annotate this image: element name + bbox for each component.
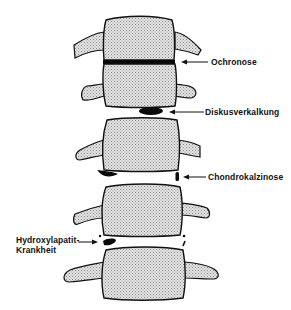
arrow-hydroxylapatit — [78, 240, 98, 245]
hydroxyapatite-deposit — [103, 239, 116, 246]
vertebral-body — [103, 118, 180, 172]
vertebral-body — [102, 247, 185, 300]
arrow-ochronose — [181, 60, 208, 65]
transverse-process-left — [74, 205, 104, 224]
hydroxyapatite-dot-right — [183, 235, 186, 238]
hydroxyapatite-mark-right — [183, 241, 185, 246]
label-chondrokalzinose: Chondrokalzinose — [208, 172, 283, 182]
vertebra-1 — [74, 16, 201, 60]
chondrocalcinosis-left — [99, 171, 116, 176]
transverse-process-left — [64, 262, 105, 282]
transverse-process-right — [178, 140, 200, 157]
vertebral-body — [103, 16, 174, 60]
disc-calcification-blob — [139, 107, 163, 115]
arrow-chondrokalzinose — [183, 175, 206, 180]
spine-diagram — [0, 0, 291, 310]
chondrocalcinosis-right — [176, 172, 180, 181]
label-diskusverkalkung: Diskusverkalkung — [205, 107, 279, 117]
transverse-process-left — [82, 84, 104, 100]
transverse-process-right — [175, 32, 201, 55]
hydroxyapatite-dot-left — [99, 235, 101, 237]
vertebra-2 — [82, 64, 196, 108]
vertebral-body — [103, 64, 177, 108]
transverse-process-left — [76, 140, 104, 160]
label-hydroxylapatit-line1: Hydroxylapatit- — [16, 235, 79, 245]
transverse-process-right — [181, 203, 210, 218]
vertebra-5 — [64, 247, 218, 300]
label-hydroxylapatit-line2: Krankheit — [16, 245, 56, 255]
transverse-process-left — [74, 32, 104, 58]
transverse-process-right — [175, 84, 196, 98]
label-ochronose: Ochronose — [211, 57, 257, 67]
vertebra-4 — [74, 184, 210, 237]
transverse-process-right — [184, 262, 218, 279]
vertebra-3 — [76, 118, 200, 172]
arrow-diskusverkalkung — [169, 110, 204, 115]
vertebral-body — [102, 184, 182, 237]
